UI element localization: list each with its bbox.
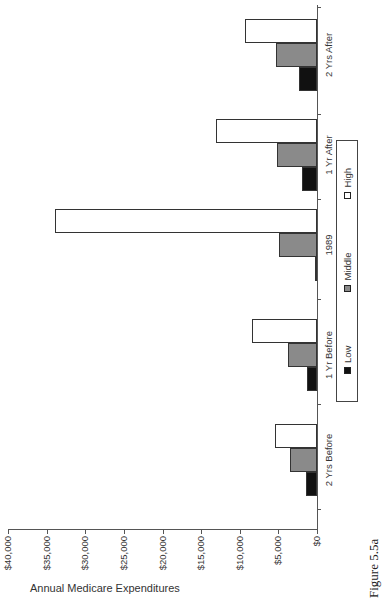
category-label: 2 Yrs After <box>323 5 334 105</box>
bar-middle <box>290 448 317 472</box>
category-label: 2 Yrs Before <box>323 410 334 510</box>
bar-low <box>307 367 317 391</box>
y-tick-label: $15,000 <box>195 536 206 596</box>
legend: LowMiddleHigh <box>336 140 358 402</box>
category-label: 1989 <box>323 195 334 295</box>
y-axis-title: Annual Medicare Expenditures <box>30 582 180 594</box>
y-tick <box>85 530 86 534</box>
figure-caption: Figure 5.5a <box>366 539 382 598</box>
y-tick <box>278 530 279 534</box>
y-tick <box>47 530 48 534</box>
legend-item-high: High <box>342 168 353 199</box>
x-tick <box>317 509 321 510</box>
x-tick <box>317 114 321 115</box>
x-tick <box>317 299 321 300</box>
y-tick-label: $0 <box>311 536 322 596</box>
bar-middle <box>276 43 317 67</box>
y-tick <box>8 530 9 534</box>
legend-item-low: Low <box>342 346 353 374</box>
legend-label: High <box>342 168 353 188</box>
legend-swatch-icon <box>344 367 351 374</box>
legend-label: Middle <box>342 253 353 281</box>
y-tick-label: $5,000 <box>272 536 283 596</box>
bar-high <box>252 319 317 343</box>
bar-low <box>315 257 317 281</box>
x-tick <box>317 7 321 8</box>
y-tick <box>240 530 241 534</box>
y-tick-label: $40,000 <box>2 536 13 596</box>
y-tick <box>317 530 318 534</box>
bar-high <box>275 424 317 448</box>
x-tick <box>317 199 321 200</box>
legend-swatch-icon <box>344 285 351 292</box>
y-tick <box>163 530 164 534</box>
bar-high <box>245 19 317 43</box>
legend-item-middle: Middle <box>342 253 353 292</box>
bar-high <box>55 209 317 233</box>
bar-middle <box>279 233 317 257</box>
legend-label: Low <box>342 346 353 363</box>
y-tick <box>124 530 125 534</box>
x-tick <box>317 404 321 405</box>
category-label: 1 Yr Before <box>323 305 334 405</box>
bar-low <box>299 67 317 91</box>
y-tick <box>201 530 202 534</box>
bar-high <box>216 119 317 143</box>
bar-low <box>302 167 317 191</box>
y-tick-label: $10,000 <box>234 536 245 596</box>
category-label: 1 Yr After <box>323 105 334 205</box>
bar-middle <box>277 143 317 167</box>
bar-middle <box>288 343 317 367</box>
chart-canvas: $0$5,000$10,000$15,000$20,000$25,000$30,… <box>0 0 387 598</box>
legend-swatch-icon <box>344 192 351 199</box>
bar-low <box>306 472 317 496</box>
